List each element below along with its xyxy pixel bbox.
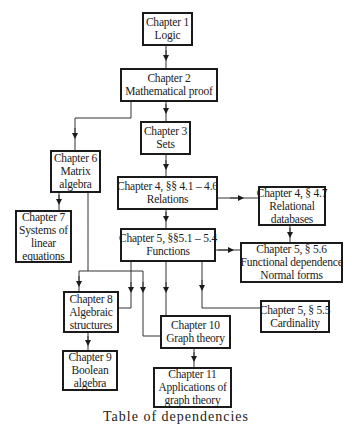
node-title: Chapter 10 [171, 319, 220, 332]
node-chapter-9-boolean-algebra: Chapter 9 Boolean algebra [62, 350, 118, 391]
node-title: Chapter 8 [69, 293, 112, 306]
node-subtitle: Algebraic [69, 306, 113, 319]
node-subtitle: Applications of [158, 381, 226, 394]
node-subtitle: Functions [146, 245, 190, 258]
node-title: Chapter 4, §§ 4.1 – 4.6 [117, 180, 218, 193]
node-subtitle-3: equations [22, 250, 64, 263]
node-subtitle-2: databases [271, 213, 313, 226]
node-chapter-5-functions: Chapter 5, §§5.1 – 5.4 Functions [120, 228, 216, 262]
node-chapter-3-sets: Chapter 3 Sets [140, 121, 191, 155]
node-chapter-10-graph-theory: Chapter 10 Graph theory [160, 315, 231, 349]
node-title: Chapter 9 [68, 351, 111, 364]
node-title: Chapter 11 [168, 368, 216, 381]
figure-caption: Table of dependencies [0, 409, 352, 425]
node-chapter-4-relational-databases: Chapter 4, § 4.7 Relational databases [258, 186, 326, 226]
node-title: Chapter 5, § 5.5 [260, 304, 331, 317]
node-chapter-1-logic: Chapter 1 Logic [142, 12, 193, 46]
node-subtitle: Cardinality [270, 317, 320, 330]
node-subtitle-2: linear [31, 237, 56, 250]
node-chapter-6-matrix-algebra: Chapter 6 Matrix algebra [50, 150, 101, 193]
node-title: Chapter 4, § 4.7 [257, 187, 328, 200]
node-subtitle: Logic [155, 29, 181, 42]
node-subtitle-2: structures [70, 319, 113, 332]
node-subtitle: Systems of [19, 224, 68, 237]
node-subtitle-2: algebra [59, 178, 91, 191]
node-subtitle: Boolean [72, 364, 109, 377]
node-chapter-8-algebraic-structures: Chapter 8 Algebraic structures [63, 291, 119, 333]
node-subtitle: Graph theory [166, 332, 225, 345]
node-chapter-5-cardinality: Chapter 5, § 5.5 Cardinality [260, 300, 330, 333]
node-subtitle-2: graph theory [164, 394, 220, 407]
node-title: Chapter 7 [22, 211, 65, 224]
node-title: Chapter 6 [54, 152, 97, 165]
node-subtitle-2: Normal forms [260, 269, 322, 282]
node-chapter-4-relations: Chapter 4, §§ 4.1 – 4.6 Relations [117, 176, 218, 210]
node-subtitle: Relational [269, 200, 314, 213]
node-title: Chapter 1 [146, 16, 189, 29]
node-title: Chapter 2 [147, 72, 190, 85]
node-subtitle: Functional dependence [240, 256, 342, 269]
node-chapter-7-linear-equations: Chapter 7 Systems of linear equations [15, 210, 72, 263]
node-subtitle: Matrix [60, 165, 90, 178]
node-subtitle: Relations [147, 193, 189, 206]
node-subtitle: Sets [156, 138, 174, 151]
node-subtitle-2: algebra [74, 377, 106, 390]
node-chapter-11-applications-graph-theory: Chapter 11 Applications of graph theory [153, 367, 232, 408]
node-title: Chapter 5, § 5.6 [256, 243, 327, 256]
node-chapter-2-mathematical-proof: Chapter 2 Mathematical proof [120, 68, 218, 102]
node-title: Chapter 3 [144, 125, 187, 138]
node-chapter-5-functional-dependence: Chapter 5, § 5.6 Functional dependence N… [240, 242, 343, 283]
node-title: Chapter 5, §§5.1 – 5.4 [119, 232, 217, 245]
node-subtitle: Mathematical proof [125, 85, 212, 98]
